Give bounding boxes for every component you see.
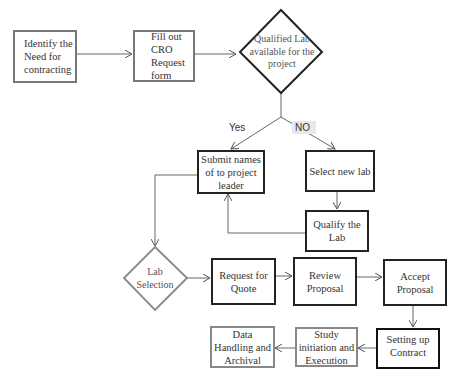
node-select-new-lab: Select new lab	[305, 150, 375, 192]
node-request-quote-label: Request for Quote	[213, 269, 274, 295]
edge-label-yes: Yes	[229, 122, 245, 133]
node-fill-cro-form: Fill out CRO Request form	[133, 30, 195, 82]
node-qualify-lab-label: Qualify the Lab	[307, 218, 367, 244]
node-submit-names-label: Submit names of to project leader	[199, 153, 263, 192]
node-study-initiation: Study initiation and Execution	[295, 327, 358, 367]
node-accept-proposal: Accept Proposal	[383, 259, 447, 306]
edge-label-no: NO	[292, 121, 316, 134]
node-setting-contract: Setting up Contract	[376, 328, 440, 369]
node-request-quote: Request for Quote	[211, 258, 276, 305]
node-identify-need: Identify the Need for contracting	[13, 30, 77, 83]
node-select-new-lab-label: Select new lab	[309, 165, 370, 178]
node-submit-names: Submit names of to project leader	[197, 150, 265, 194]
node-data-handling: Data Handling and Archival	[210, 326, 275, 368]
node-data-handling-label: Data Handling and Archival	[212, 328, 273, 367]
node-qualify-lab: Qualify the Lab	[305, 210, 369, 252]
decision-qualified-lab-label: Qualified Lab available for the project	[248, 33, 316, 71]
node-fill-cro-form-label: Fill out CRO Request form	[151, 30, 187, 82]
node-accept-proposal-label: Accept Proposal	[385, 270, 445, 296]
node-study-initiation-label: Study initiation and Execution	[297, 328, 356, 367]
node-setting-contract-label: Setting up Contract	[378, 333, 438, 359]
node-identify-need-label: Identify the Need for contracting	[24, 37, 75, 76]
node-review-proposal: Review Proposal	[293, 257, 357, 306]
node-review-proposal-label: Review Proposal	[295, 269, 355, 295]
decision-lab-selection-label: Lab Selection	[130, 266, 180, 291]
